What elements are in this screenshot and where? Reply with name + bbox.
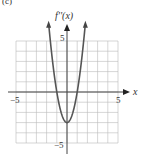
y-axis-label: f''(x) [55, 10, 73, 21]
y-min-label: −5 [54, 140, 64, 150]
curve-left-arrow-icon [46, 21, 51, 28]
panel-label: (c) [2, 0, 12, 6]
x-axis-arrow-icon [123, 89, 130, 95]
curve-right-arrow-icon [83, 21, 88, 28]
second-derivative-graph [0, 0, 146, 159]
x-min-label: −5 [10, 95, 20, 105]
y-axis [64, 24, 70, 154]
x-axis-label: x [133, 86, 137, 97]
x-max-label: 5 [116, 95, 121, 105]
y-max-label: 5 [60, 33, 65, 43]
y-axis-arrow-icon [64, 24, 70, 31]
